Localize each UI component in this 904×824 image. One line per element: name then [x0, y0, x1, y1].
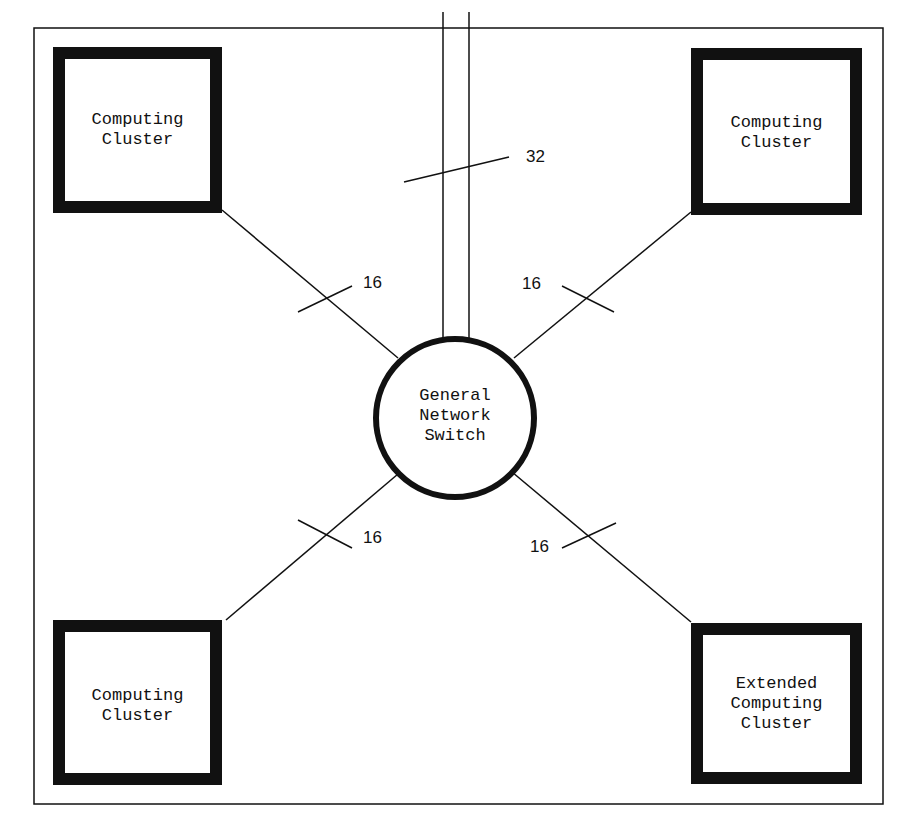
link-count-tr: 16	[522, 274, 541, 294]
link-count-tl: 16	[363, 273, 382, 293]
node-label-tr: ComputingCluster	[697, 113, 856, 153]
node-label-tl: ComputingCluster	[59, 110, 216, 150]
tick-bl	[298, 520, 352, 548]
link-count-bl: 16	[363, 528, 382, 548]
tick-tl	[298, 286, 352, 312]
node-label-bl: ComputingCluster	[59, 686, 216, 726]
link-count-br: 16	[530, 537, 549, 557]
switch-label: GeneralNetworkSwitch	[395, 386, 515, 446]
tick-br	[562, 523, 616, 548]
bus-width-tick	[404, 157, 509, 182]
node-label-br: ExtendedComputingCluster	[697, 674, 856, 734]
tick-tr	[562, 286, 614, 312]
link-count-external: 32	[526, 147, 545, 167]
